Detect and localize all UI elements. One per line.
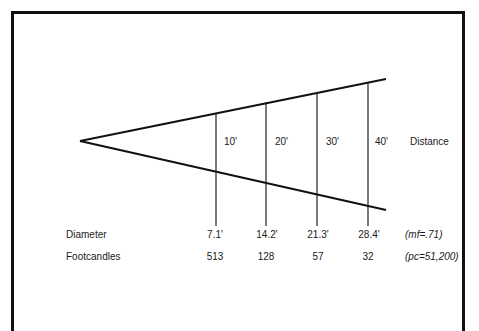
distance-label-30: 30' bbox=[326, 136, 339, 148]
footcandles-value: 128 bbox=[258, 251, 275, 263]
footcandles-value: 513 bbox=[207, 251, 224, 263]
diameter-label: Diameter bbox=[66, 229, 107, 241]
diameter-value: 21.3' bbox=[307, 229, 328, 241]
footcandles-note: (pc=51,200) bbox=[405, 251, 459, 263]
distance-axis-label: Distance bbox=[410, 136, 449, 148]
diameter-note: (mf=.71) bbox=[405, 229, 443, 241]
distance-label-20: 20' bbox=[275, 136, 288, 148]
diameter-value: 28.4' bbox=[358, 229, 379, 241]
distance-label-40: 40' bbox=[375, 136, 388, 148]
diameter-value: 14.2' bbox=[256, 229, 277, 241]
footcandles-value: 57 bbox=[312, 251, 323, 263]
diameter-value: 7.1' bbox=[207, 229, 223, 241]
beam-lower-edge bbox=[80, 141, 386, 210]
distance-label-10: 10' bbox=[224, 136, 237, 148]
footcandles-value: 32 bbox=[362, 251, 373, 263]
footcandles-label: Footcandles bbox=[66, 251, 120, 263]
beam-upper-edge bbox=[80, 79, 386, 141]
